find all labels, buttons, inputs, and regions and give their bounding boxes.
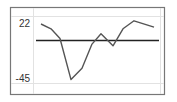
line-chart: 22 -45 bbox=[0, 0, 177, 102]
y-axis-min-label: -45 bbox=[16, 73, 31, 84]
y-axis-max-label: 22 bbox=[19, 18, 31, 29]
